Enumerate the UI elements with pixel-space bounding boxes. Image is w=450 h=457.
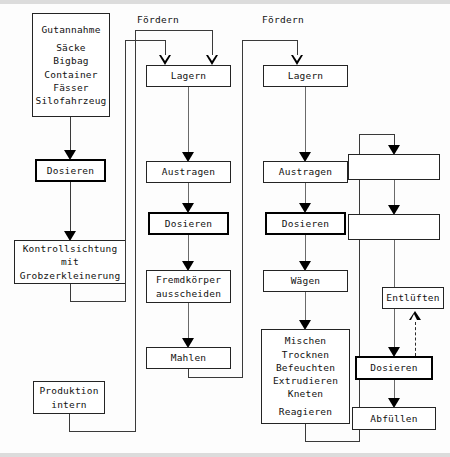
- connector-austragen2-to-dosieren2: [188, 183, 189, 204]
- node-dosieren-4: Dosieren: [355, 356, 433, 380]
- node-abfuellen: Abfüllen: [352, 407, 436, 430]
- node-dosieren-3: Dosieren: [265, 212, 346, 235]
- connector-prozess-right: [305, 441, 360, 442]
- scan-edge-top: [0, 0, 450, 4]
- kontrollsichtung-line-2: mit: [61, 255, 79, 268]
- node-prozessschritte: Mischen Trocknen Befeuchten Extrudieren …: [261, 329, 350, 424]
- prozess-item-trocknen: Trocknen: [282, 348, 329, 361]
- node-waegen-label: Wägen: [291, 274, 321, 287]
- connector-dosieren4-to-abfuellen: [394, 380, 395, 399]
- node-dosieren-4-label: Dosieren: [370, 361, 417, 374]
- node-entlueften: Entlüften: [382, 287, 444, 309]
- connector-lagern3-to-austragen3: [305, 87, 306, 153]
- prozess-item-reagieren: Reagieren: [279, 405, 332, 418]
- scan-edge-bottom: [0, 453, 450, 457]
- connector-kontrollsichtung-into-lagern2: [125, 40, 166, 41]
- connector-dosieren3-to-waegen: [305, 235, 306, 262]
- node-austragen-3: Austragen: [263, 161, 348, 183]
- node-dosieren-1: Dosieren: [35, 159, 106, 182]
- gutannahme-item-container: Container: [44, 68, 97, 81]
- connector-lagern2-to-austragen2: [188, 87, 189, 153]
- connector-lagern2-inlet-right-drop: [212, 30, 213, 55]
- fremdkoerper-line-1: Fremdkörper: [156, 273, 221, 286]
- connector-kontrollsichtung-up-to-lagern2: [125, 40, 126, 302]
- node-entlueften-label: Entlüften: [386, 291, 439, 304]
- connector-kontrollsichtung-right: [70, 301, 126, 302]
- gutannahme-item-saecke: Säcke: [56, 41, 86, 54]
- connector-kontrollsichtung-down: [70, 284, 71, 302]
- connector-blank1-to-blank2: [394, 180, 395, 206]
- connector-gutannahme-to-dosieren1: [70, 117, 71, 151]
- fremdkoerper-line-2: ausscheiden: [156, 287, 221, 300]
- node-fremdkoerper: Fremdkörper ausscheiden: [146, 270, 231, 303]
- connector-austragen3-to-dosieren3: [305, 183, 306, 204]
- node-dosieren-2: Dosieren: [148, 212, 229, 235]
- connector-dosieren2-to-fremdkoerper: [188, 235, 189, 262]
- produktion-intern-line-2: intern: [51, 398, 87, 411]
- node-blank-1: [348, 154, 440, 180]
- node-dosieren-3-label: Dosieren: [282, 217, 329, 230]
- column-label-foerdern-2: Fördern: [137, 14, 179, 25]
- gutannahme-item-silofahrzeug: Silofahrzeug: [35, 94, 106, 107]
- node-gutannahme: Gutannahme Säcke Bigbag Container Fässer…: [32, 13, 110, 117]
- connector-lagern3-inlet-drop: [297, 40, 298, 55]
- node-austragen-2-label: Austragen: [162, 165, 215, 178]
- node-mahlen: Mahlen: [146, 347, 231, 369]
- kontrollsichtung-line-1: Kontrollsichtung: [23, 242, 118, 255]
- gutannahme-item-bigbag: Bigbag: [53, 54, 89, 67]
- node-kontrollsichtung: Kontrollsichtung mit Grobzerkleinerung: [14, 240, 126, 284]
- arrowhead-hollow-lagern2-right: [206, 55, 218, 65]
- node-austragen-3-label: Austragen: [279, 165, 332, 178]
- connector-waegen-to-prozess: [305, 292, 306, 321]
- node-lagern-3: Lagern: [263, 65, 348, 87]
- node-lagern-2: Lagern: [146, 65, 231, 87]
- node-dosieren-1-label: Dosieren: [47, 164, 94, 177]
- column-label-foerdern-3: Fördern: [262, 14, 304, 25]
- node-abfuellen-label: Abfüllen: [370, 412, 417, 425]
- node-dosieren-2-label: Dosieren: [165, 217, 212, 230]
- connector-prozess-up-to-blank1: [359, 134, 360, 441]
- kontrollsichtung-line-3: Grobzerkleinerung: [20, 269, 121, 282]
- connector-mahlen-right: [188, 377, 243, 378]
- connector-lagern2-inlet-left-drop: [165, 40, 166, 55]
- node-lagern-3-label: Lagern: [288, 69, 324, 82]
- prozess-item-mischen: Mischen: [285, 334, 326, 347]
- arrowhead-hollow-into-entlueften: [409, 311, 421, 320]
- prozess-item-befeuchten: Befeuchten: [276, 361, 335, 374]
- connector-fremdkoerper-to-mahlen: [188, 303, 189, 339]
- arrowhead-hollow-lagern2-left: [159, 55, 171, 65]
- connector-dashed-vent-to-entlueften: [415, 322, 416, 356]
- connector-produktion-into-lagern2: [135, 30, 213, 31]
- connector-produktion-up-to-lagern2: [135, 30, 136, 432]
- gutannahme-header: Gutannahme: [41, 23, 100, 36]
- node-produktion-intern: Produktion intern: [33, 381, 105, 414]
- prozess-item-kneten: Kneten: [288, 387, 324, 400]
- flowchart-diagram: Fördern Fördern Gutannahme Säcke Bigbag …: [0, 0, 450, 457]
- node-waegen: Wägen: [263, 270, 348, 292]
- connector-mahlen-into-lagern3: [242, 40, 298, 41]
- connector-mahlen-up-to-lagern3: [242, 40, 243, 378]
- connector-prozess-into-blank1: [359, 134, 395, 135]
- gutannahme-item-faesser: Fässer: [53, 81, 89, 94]
- node-austragen-2: Austragen: [146, 161, 231, 183]
- prozess-item-extrudieren: Extrudieren: [273, 374, 338, 387]
- node-lagern-2-label: Lagern: [171, 69, 207, 82]
- produktion-intern-line-1: Produktion: [39, 384, 98, 397]
- connector-prozess-down: [305, 424, 306, 442]
- node-mahlen-label: Mahlen: [171, 351, 207, 364]
- connector-dosieren1-to-kontrollsichtung: [70, 182, 71, 232]
- node-blank-2: [348, 214, 440, 240]
- arrowhead-hollow-lagern3: [291, 55, 303, 65]
- connector-produktion-right: [69, 431, 136, 432]
- connector-produktion-down: [69, 414, 70, 432]
